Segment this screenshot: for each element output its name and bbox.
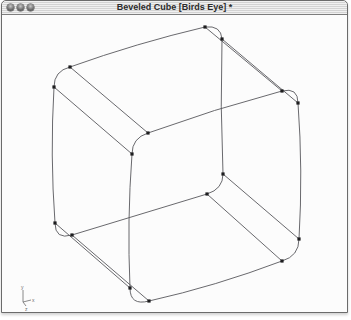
bevel-corner-arc — [282, 239, 299, 261]
cube-edge — [54, 87, 132, 154]
control-point-F2[interactable] — [70, 233, 73, 236]
cube-edge — [222, 39, 298, 103]
cube-edge — [149, 261, 282, 301]
control-point-B2[interactable] — [52, 85, 55, 88]
control-point-A1[interactable] — [203, 25, 206, 28]
bevel-corner-arc — [207, 174, 223, 194]
cube-edge — [55, 223, 130, 288]
cube-edge — [207, 194, 282, 261]
cube-edge — [223, 174, 299, 239]
cube-edge — [72, 235, 149, 301]
control-point-D1[interactable] — [280, 89, 283, 92]
axis-x-label: x — [32, 297, 35, 303]
cube-edge — [72, 194, 207, 235]
axis-y-label: y — [21, 284, 24, 290]
cube-edge — [298, 103, 301, 239]
control-point-C2[interactable] — [130, 152, 133, 155]
control-point-H1[interactable] — [297, 237, 300, 240]
cube-edge — [70, 67, 148, 133]
bevel-corner-arc — [132, 133, 148, 154]
control-point-E1[interactable] — [221, 172, 224, 175]
control-point-B1[interactable] — [68, 65, 71, 68]
app-window: Beveled Cube [Birds Eye] * yxz — [1, 0, 348, 313]
control-point-F1[interactable] — [53, 221, 56, 224]
cube-edge — [148, 91, 282, 133]
control-point-H2[interactable] — [280, 259, 283, 262]
cube-edge — [221, 39, 223, 174]
cube-edge — [129, 154, 132, 288]
axis-x-line — [23, 300, 31, 302]
control-point-E2[interactable] — [205, 192, 208, 195]
control-point-D2[interactable] — [296, 101, 299, 104]
control-point-C1[interactable] — [146, 131, 149, 134]
wireframe-canvas[interactable]: yxz — [2, 15, 347, 312]
control-point-A2[interactable] — [220, 37, 223, 40]
cube-edge — [52, 87, 55, 223]
control-point-G2[interactable] — [147, 299, 150, 302]
viewport: yxz — [2, 15, 347, 312]
bevel-corner-arc — [130, 288, 149, 302]
control-point-G1[interactable] — [128, 286, 131, 289]
bevel-corner-arc — [54, 67, 70, 87]
window-title: Beveled Cube [Birds Eye] * — [2, 1, 347, 14]
axis-z-label: z — [25, 306, 28, 312]
cube-edge — [205, 27, 282, 91]
cube-edge — [70, 27, 205, 67]
window-titlebar[interactable]: Beveled Cube [Birds Eye] * — [2, 1, 347, 15]
